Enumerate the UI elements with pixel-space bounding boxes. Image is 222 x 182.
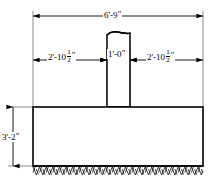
dim-label-right-offset: 2'-1012" bbox=[146, 49, 175, 64]
dim-label-left-offset: 2'-1012" bbox=[47, 49, 76, 64]
fraction-right-offset: 12 bbox=[166, 49, 171, 64]
dim-label-column-width: 1'-0" bbox=[107, 49, 126, 59]
inch-mark-height: " bbox=[16, 131, 20, 141]
drawing-canvas bbox=[0, 0, 222, 182]
footing-block bbox=[33, 107, 203, 166]
fraction-left-offset: 12 bbox=[67, 49, 72, 64]
dim-label-footing-height: 3'-2" bbox=[1, 132, 20, 142]
inch-mark-total: " bbox=[118, 9, 122, 19]
column-pier bbox=[107, 32, 130, 107]
inch-mark-right: " bbox=[171, 50, 175, 60]
hatch-zigzag-a bbox=[33, 167, 203, 175]
column-outline bbox=[107, 32, 130, 107]
ground-hatch bbox=[33, 166, 203, 175]
footing-elevation-drawing: 6'-9" 2'-1012" 1'-0" 2'-1012" 3'-2" bbox=[0, 0, 222, 182]
inch-mark-left: " bbox=[72, 50, 76, 60]
dim-label-total-width: 6'-9" bbox=[103, 10, 122, 20]
inch-mark-column: " bbox=[122, 48, 126, 58]
